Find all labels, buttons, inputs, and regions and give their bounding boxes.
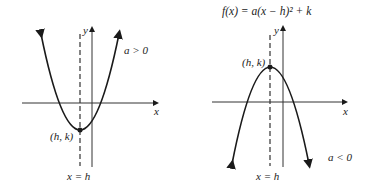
diagram-canvas [0, 0, 365, 195]
right-axis-of-symmetry-label: x = h [256, 171, 279, 182]
right-y-axis-label: y [274, 25, 279, 36]
left-y-axis-label: y [83, 25, 88, 36]
left-x-axis-label: x [154, 106, 159, 117]
right-graph [212, 28, 345, 167]
left-vertex-point [78, 128, 83, 133]
vertex-form-formula: f(x) = a(x − h)² + k [222, 6, 311, 18]
right-vertex-label: (h, k) [242, 57, 265, 68]
right-x-axis-label: x [343, 106, 348, 117]
left-case-label: a > 0 [124, 45, 148, 56]
right-case-label: a < 0 [328, 152, 352, 163]
left-axis-of-symmetry-label: x = h [67, 171, 90, 182]
right-vertex-point [268, 65, 273, 70]
left-vertex-label: (h, k) [50, 131, 73, 142]
parabola-vertex-form-diagram: f(x) = a(x − h)² + k y a > 0 x (h, k) x … [0, 0, 365, 195]
